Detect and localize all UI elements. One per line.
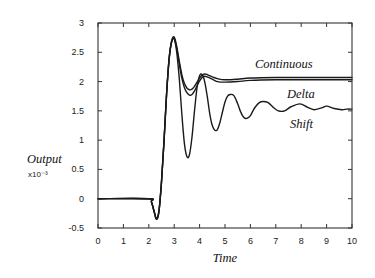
series-line-continuous (98, 37, 352, 218)
x-tick-label: 9 (324, 236, 329, 246)
x-tick-label: 0 (95, 236, 100, 246)
plot-curves (98, 37, 352, 220)
series-label-shift: Shift (290, 117, 313, 131)
x-tick-label: 4 (197, 236, 202, 246)
series-label-continuous: Continuous (255, 57, 313, 71)
x-tick-label: 1 (121, 236, 126, 246)
y-tick-label: 3 (79, 18, 84, 28)
x-tick-label: 8 (299, 236, 304, 246)
y-tick-label: 0.5 (71, 164, 84, 174)
x-tick-label: 5 (222, 236, 227, 246)
x-tick-label: 7 (273, 236, 278, 246)
y-tick-label: 0 (79, 194, 84, 204)
series-line-delta (98, 38, 352, 219)
y-tick-label: 2 (79, 77, 84, 87)
x-axis-title: Time (213, 251, 238, 265)
y-tick-label: -0.5 (68, 223, 84, 233)
series-line-shift (98, 38, 352, 219)
line-chart: -0.500.511.522.53 012345678910 Output x1… (0, 0, 375, 278)
x-tick-label: 3 (172, 236, 177, 246)
plot-frame (98, 23, 352, 228)
y-tick-label: 1 (79, 135, 84, 145)
y-axis-scale: x10⁻³ (28, 170, 48, 179)
y-tick-label: 1.5 (71, 106, 84, 116)
x-tick-label: 10 (347, 236, 357, 246)
x-axis-ticks: 012345678910 (95, 23, 357, 246)
x-tick-label: 6 (248, 236, 253, 246)
series-label-delta: Delta (286, 87, 315, 101)
y-tick-label: 2.5 (71, 47, 84, 57)
y-axis-title: Output (27, 152, 62, 166)
x-tick-label: 2 (146, 236, 151, 246)
